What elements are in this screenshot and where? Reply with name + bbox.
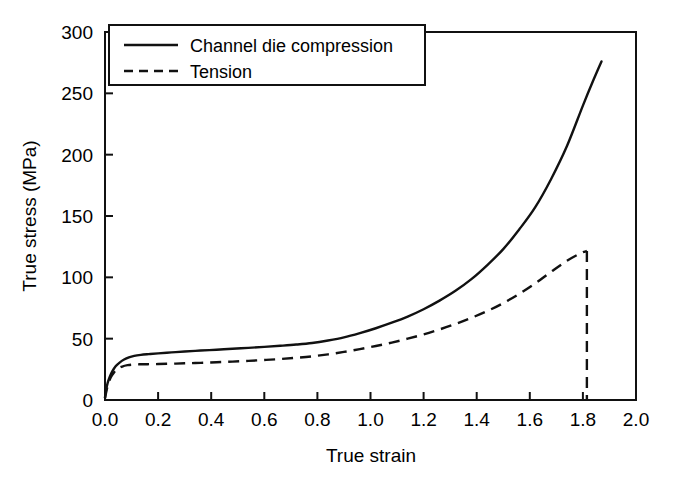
- y-tick-label: 300: [61, 22, 93, 43]
- y-tick-label: 100: [61, 267, 93, 288]
- x-tick-label: 1.6: [517, 409, 543, 430]
- x-tick-label: 0.8: [304, 409, 330, 430]
- chart-canvas: 0.00.20.40.60.81.01.21.41.61.82.0 050100…: [0, 0, 685, 486]
- x-tick-label: 2.0: [623, 409, 649, 430]
- x-axis-title: True strain: [326, 445, 416, 466]
- y-tick-label: 200: [61, 145, 93, 166]
- y-axis-title: True stress (MPa): [19, 140, 40, 291]
- legend-label-channel-die-compression: Channel die compression: [190, 36, 393, 56]
- y-tick-label: 150: [61, 206, 93, 227]
- x-tick-label: 1.2: [410, 409, 436, 430]
- x-tick-label: 1.8: [570, 409, 596, 430]
- chart-legend: Channel die compression Tension: [109, 25, 425, 85]
- x-tick-label: 1.4: [463, 409, 490, 430]
- y-tick-label: 50: [72, 329, 93, 350]
- legend-label-tension: Tension: [190, 62, 252, 82]
- x-tick-label: 0.2: [145, 409, 171, 430]
- x-tick-label: 0.0: [92, 409, 118, 430]
- x-tick-label: 0.6: [251, 409, 277, 430]
- x-tick-label: 0.4: [198, 409, 225, 430]
- stress-strain-chart: 0.00.20.40.60.81.01.21.41.61.82.0 050100…: [0, 0, 685, 486]
- y-tick-label: 0: [82, 390, 93, 411]
- y-tick-label: 250: [61, 83, 93, 104]
- x-tick-label: 1.0: [357, 409, 383, 430]
